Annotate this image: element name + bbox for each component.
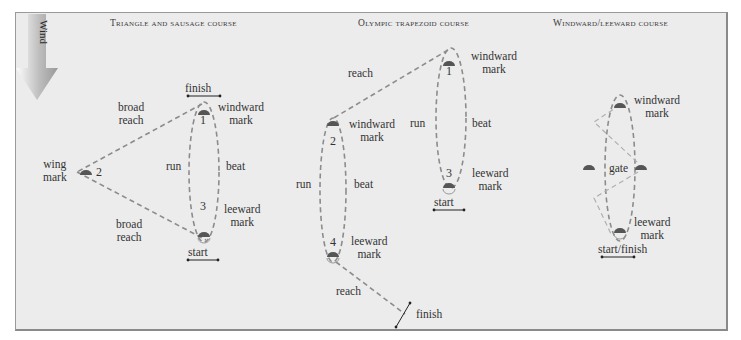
- mark-rounding-arcs: [198, 189, 626, 263]
- label-broad-reach-top: broadreach: [118, 101, 144, 127]
- mark-number-2: 2: [330, 134, 336, 149]
- label-windward-mark: windwardmark: [218, 101, 264, 127]
- label-leeward-mark-3: leewardmark: [472, 167, 508, 193]
- label-windward-mark: windwardmark: [634, 94, 680, 120]
- label-leeward-mark: leewardmark: [634, 216, 670, 242]
- label-beat: beat: [226, 160, 245, 173]
- course-title-trapezoid: Olympic trapezoid course: [358, 18, 469, 28]
- wind-arrow-icon: [16, 14, 58, 100]
- course-title-windward-leeward: Windward/leeward course: [553, 18, 668, 28]
- label-run: run: [166, 160, 181, 173]
- label-windward-mark-2: windwardmark: [349, 118, 395, 144]
- courses-canvas: [0, 0, 741, 340]
- trapezoid-course-paths: [320, 48, 466, 314]
- mark-number-3: 3: [446, 166, 452, 181]
- label-reach-bottom: reach: [336, 285, 361, 298]
- label-beat-outer: beat: [354, 178, 373, 191]
- mark-number-1: 1: [200, 113, 206, 128]
- mark-number-2: 2: [96, 165, 102, 180]
- label-leeward-mark-4: leewardmark: [351, 235, 387, 261]
- label-start: start: [188, 246, 208, 259]
- label-finish: finish: [185, 82, 211, 95]
- label-run-outer: run: [296, 178, 311, 191]
- label-gate: gate: [609, 162, 628, 175]
- label-start: start: [434, 196, 454, 209]
- label-beat-inner: beat: [472, 117, 491, 130]
- label-start-finish: start/finish: [598, 243, 647, 256]
- label-wing-mark: wingmark: [43, 158, 67, 184]
- wind-label: Wind: [38, 20, 50, 44]
- label-leeward-mark: leewardmark: [224, 203, 260, 229]
- buoy-marks: [80, 61, 647, 257]
- label-broad-reach-bottom: broadreach: [116, 218, 142, 244]
- label-reach-top: reach: [348, 67, 373, 80]
- mark-number-3: 3: [200, 199, 206, 214]
- label-finish: finish: [416, 308, 442, 321]
- label-run-inner: run: [410, 117, 425, 130]
- course-title-triangle: Triangle and sausage course: [110, 18, 237, 28]
- mark-number-4: 4: [330, 235, 336, 250]
- label-windward-mark-1: windwardmark: [471, 50, 517, 76]
- mark-number-1: 1: [446, 64, 452, 79]
